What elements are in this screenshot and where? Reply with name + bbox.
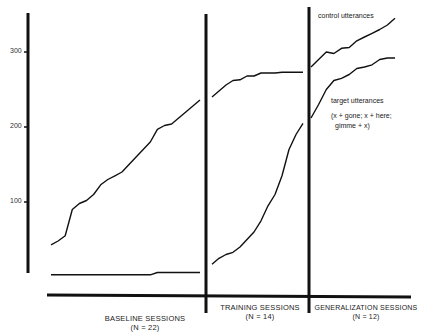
control-line-baseline <box>51 100 200 245</box>
generalization-n: (N = 12) <box>310 312 422 321</box>
target-line-generalization <box>311 58 395 118</box>
y-tick-label-100: 100 <box>10 197 22 204</box>
x-axis <box>47 295 411 297</box>
y-tick-label-200: 200 <box>10 122 22 129</box>
target-detail-line-2: gimme + x) <box>335 121 370 130</box>
series-layer <box>51 18 395 275</box>
control-line-generalization <box>311 18 395 67</box>
target-utterances-label: target utterances <box>331 96 384 105</box>
training-n: (N = 14) <box>212 312 308 321</box>
phase-label-training: TRAINING SESSIONS (N = 14) <box>212 303 308 321</box>
training-title: TRAINING SESSIONS <box>212 303 308 312</box>
phase-label-baseline: BASELINE SESSIONS (N = 22) <box>75 314 215 332</box>
generalization-title: GENERALIZATION SESSIONS <box>310 303 422 312</box>
baseline-n: (N = 22) <box>75 323 215 332</box>
phase-label-generalization: GENERALIZATION SESSIONS (N = 12) <box>310 303 422 321</box>
target-line-baseline <box>51 273 200 275</box>
y-tick-label-300: 300 <box>10 47 22 54</box>
target-detail-line-1: (x + gone; x + here; <box>331 111 392 120</box>
target-line-training <box>212 123 303 264</box>
baseline-title: BASELINE SESSIONS <box>75 314 215 323</box>
control-utterances-label: control utterances <box>318 11 374 20</box>
control-line-training <box>212 72 303 97</box>
